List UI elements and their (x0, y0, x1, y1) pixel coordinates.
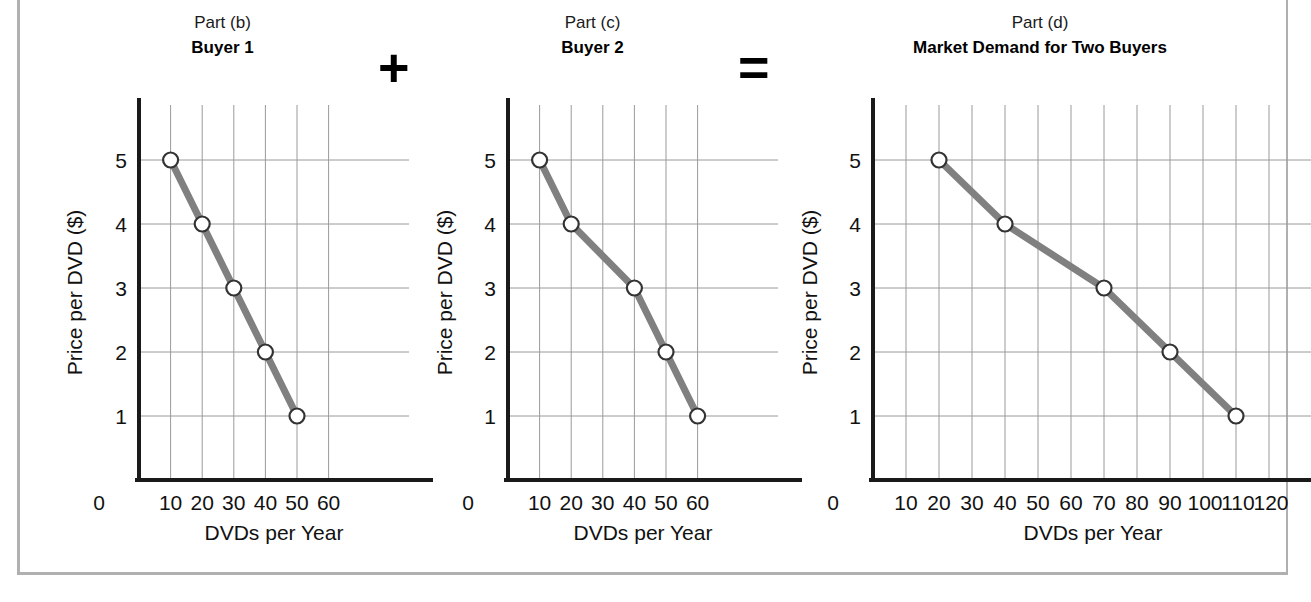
chart-buyer-2: 543210102030405060DVDs per YearPrice per… (430, 0, 755, 575)
x-tick-label: 50 (1026, 491, 1049, 514)
y-tick-label: 2 (484, 341, 496, 364)
data-point-marker (163, 153, 178, 168)
x-tick-label: 120 (1253, 491, 1288, 514)
x-tick-label: 50 (285, 491, 308, 514)
x-axis-title: DVDs per Year (574, 521, 713, 544)
x-tick-label: 10 (894, 491, 917, 514)
x-tick-label: 40 (993, 491, 1016, 514)
y-tick-label: 3 (115, 277, 127, 300)
data-point-marker (1229, 409, 1244, 424)
x-tick-label: 70 (1092, 491, 1115, 514)
y-tick-label: 3 (849, 277, 861, 300)
y-tick-label: 1 (115, 405, 127, 428)
chart-market-demand: 543210102030405060708090100110120DVDs pe… (795, 0, 1285, 575)
data-point-marker (998, 217, 1013, 232)
data-point-marker (659, 345, 674, 360)
x-tick-label: 60 (1059, 491, 1082, 514)
x-tick-label: 20 (191, 491, 214, 514)
x-tick-label: 0 (93, 491, 105, 514)
x-axis-title: DVDs per Year (1024, 521, 1163, 544)
data-point-marker (932, 153, 947, 168)
y-axis-title: Price per DVD ($) (798, 210, 821, 376)
y-tick-label: 1 (484, 405, 496, 428)
panels-container: Part (b) Buyer 1 543210102030405060DVDs … (20, 0, 1291, 575)
y-tick-label: 5 (484, 149, 496, 172)
x-tick-label: 20 (927, 491, 950, 514)
panel-buyer-2: Part (c) Buyer 2 543210102030405060DVDs … (430, 0, 755, 575)
x-tick-label: 60 (317, 491, 340, 514)
x-tick-label: 20 (560, 491, 583, 514)
plus-operator-icon: + (378, 40, 410, 94)
x-tick-label: 40 (254, 491, 277, 514)
data-point-marker (1163, 345, 1178, 360)
x-tick-label: 60 (686, 491, 709, 514)
x-axis-title: DVDs per Year (205, 521, 344, 544)
x-tick-label: 30 (960, 491, 983, 514)
y-tick-label: 3 (484, 277, 496, 300)
panel-market-demand: Part (d) Market Demand for Two Buyers 54… (795, 0, 1285, 575)
y-tick-label: 2 (115, 341, 127, 364)
data-point-marker (226, 281, 241, 296)
x-tick-label: 0 (827, 491, 839, 514)
x-tick-label: 10 (159, 491, 182, 514)
x-tick-label: 30 (591, 491, 614, 514)
y-tick-label: 4 (849, 213, 861, 236)
x-tick-label: 110 (1221, 491, 1254, 514)
x-tick-label: 10 (528, 491, 551, 514)
data-point-marker (258, 345, 273, 360)
chart-buyer-1: 543210102030405060DVDs per YearPrice per… (60, 0, 385, 575)
y-tick-label: 5 (849, 149, 861, 172)
x-tick-label: 80 (1125, 491, 1148, 514)
y-tick-label: 1 (849, 405, 861, 428)
panel-buyer-1: Part (b) Buyer 1 543210102030405060DVDs … (60, 0, 385, 575)
data-point-marker (195, 217, 210, 232)
x-tick-label: 90 (1158, 491, 1181, 514)
y-axis-title: Price per DVD ($) (63, 210, 86, 376)
data-point-marker (532, 153, 547, 168)
figure-frame: Part (b) Buyer 1 543210102030405060DVDs … (17, 0, 1288, 575)
data-point-marker (1097, 281, 1112, 296)
data-point-marker (627, 281, 642, 296)
x-tick-label: 30 (222, 491, 245, 514)
y-axis-title: Price per DVD ($) (433, 210, 456, 376)
x-tick-label: 100 (1187, 491, 1222, 514)
x-tick-label: 40 (623, 491, 646, 514)
data-point-marker (564, 217, 579, 232)
x-tick-label: 0 (462, 491, 474, 514)
x-tick-label: 50 (654, 491, 677, 514)
y-tick-label: 4 (484, 213, 496, 236)
data-point-marker (290, 409, 305, 424)
y-tick-label: 5 (115, 149, 127, 172)
data-point-marker (690, 409, 705, 424)
equals-operator-icon: = (738, 40, 770, 94)
y-tick-label: 4 (115, 213, 127, 236)
y-tick-label: 2 (849, 341, 861, 364)
